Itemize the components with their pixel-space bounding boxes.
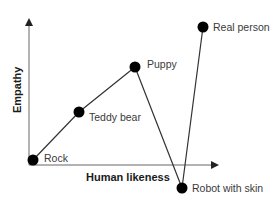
label-puppy: Puppy: [147, 59, 177, 70]
label-robot-with-skin: Robot with skin: [192, 183, 263, 194]
label-real-person: Real person: [213, 22, 270, 33]
point-teddy-bear: [74, 107, 85, 118]
x-axis-title: Human likeness: [86, 172, 170, 183]
point-robot-with-skin: [177, 183, 188, 194]
label-teddy-bear: Teddy bear: [89, 112, 141, 123]
label-rock: Rock: [44, 153, 68, 164]
point-real-person: [198, 22, 209, 33]
point-puppy: [130, 62, 141, 73]
y-axis-title: Empathy: [12, 67, 23, 113]
point-rock: [28, 155, 39, 166]
